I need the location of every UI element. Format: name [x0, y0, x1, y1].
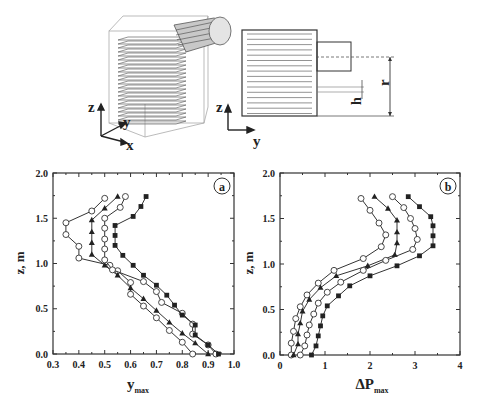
open-circle-marker — [63, 232, 69, 238]
x-tick-label: 4 — [458, 360, 463, 371]
open-circle-marker — [190, 351, 196, 357]
square-marker — [325, 303, 330, 308]
open-circle-marker — [408, 216, 414, 222]
open-circle-marker — [414, 236, 420, 242]
triangle-marker — [115, 193, 121, 198]
axis-label-x: x — [126, 137, 134, 153]
square-marker — [164, 293, 169, 298]
square-marker — [113, 243, 118, 248]
cylinder-icon — [174, 17, 231, 52]
square-marker — [395, 263, 400, 268]
open-circle-marker — [109, 267, 115, 273]
x-tick-label: 0.6 — [124, 359, 137, 370]
square-marker — [139, 204, 144, 209]
open-circle-marker — [102, 195, 108, 201]
open-circle-marker — [331, 267, 337, 273]
y-tick-label: 0.0 — [36, 349, 49, 360]
open-circle-marker — [288, 340, 294, 346]
x-tick-label: 0.5 — [98, 359, 111, 370]
x-tick-label: 2 — [368, 360, 373, 371]
open-circle-marker — [166, 327, 172, 333]
square-marker — [431, 243, 436, 248]
open-circle-marker — [383, 232, 389, 238]
open-circle-marker — [102, 246, 108, 252]
open-circle-marker — [401, 205, 407, 211]
y-tick-label: 1.0 — [263, 259, 276, 270]
y-tick-label: 2.0 — [263, 168, 276, 179]
square-marker — [131, 214, 136, 219]
square-marker — [309, 353, 314, 358]
triangle-marker — [192, 340, 198, 345]
open-circle-marker — [360, 267, 366, 273]
open-circle-marker — [76, 243, 82, 249]
open-circle-marker — [293, 316, 299, 322]
chart-a: 0.30.40.50.60.70.80.91.00.00.51.01.52.0 … — [12, 168, 240, 396]
panel-label: b — [445, 180, 452, 194]
dim-label-h: h — [349, 97, 364, 105]
square-marker — [347, 283, 352, 288]
open-circle-marker — [141, 303, 147, 309]
panel-label: a — [219, 180, 225, 194]
square-marker — [193, 333, 198, 338]
square-marker — [113, 223, 118, 228]
square-marker — [113, 233, 118, 238]
open-circle-marker — [128, 291, 134, 297]
x-tick-label: 3 — [413, 360, 418, 371]
y-tick-label: 2.0 — [36, 168, 49, 179]
square-marker — [141, 273, 146, 278]
open-circle-marker — [376, 220, 382, 226]
square-marker — [406, 194, 411, 199]
y-tick-label: 1.5 — [36, 213, 49, 224]
open-circle-marker — [179, 339, 185, 345]
x-tick-label: 0.7 — [150, 359, 163, 370]
y-tick-label: 0.0 — [263, 350, 276, 361]
open-circle-marker — [102, 236, 108, 242]
square-marker — [431, 223, 436, 228]
y-axis-label: z, m — [12, 251, 27, 274]
open-circle-marker — [360, 256, 366, 262]
x-tick-label: 0.9 — [202, 359, 215, 370]
square-marker — [417, 204, 422, 209]
plot-frame — [53, 173, 234, 354]
x-tick-label: 0.8 — [176, 359, 189, 370]
open-circle-marker — [122, 194, 128, 200]
x-tick-label: 1.0 — [228, 359, 241, 370]
plot-frame — [280, 173, 460, 355]
axes-pair-icon — [225, 105, 254, 133]
triangle-marker — [295, 341, 301, 346]
square-marker — [172, 303, 177, 308]
open-circle-marker — [159, 299, 165, 305]
x-axis-label: ΔPmax — [355, 376, 388, 395]
open-circle-marker — [153, 289, 159, 295]
open-circle-marker — [410, 246, 416, 252]
square-marker — [144, 194, 149, 199]
square-marker — [216, 352, 221, 357]
open-circle-marker — [89, 208, 95, 214]
open-circle-marker — [311, 311, 317, 317]
square-marker — [320, 313, 325, 318]
open-circle-marker — [291, 328, 297, 334]
axis-label-y-2d: y — [253, 133, 261, 149]
square-marker — [316, 333, 321, 338]
open-circle-marker — [102, 257, 108, 263]
open-circle-marker — [297, 352, 303, 358]
square-marker — [180, 313, 185, 318]
y-tick-label: 0.5 — [36, 303, 49, 314]
open-circle-marker — [63, 220, 69, 226]
triangle-marker — [372, 193, 378, 198]
triangle-marker — [89, 251, 95, 256]
triangle-marker — [89, 239, 95, 244]
y-tick-label: 1.5 — [263, 213, 276, 224]
open-circle-marker — [324, 289, 330, 295]
square-marker — [206, 343, 211, 348]
figure: z y x h r z y 0.30.40.50.60.70.80.91.00.… — [0, 0, 481, 403]
y-tick-label: 1.0 — [36, 258, 49, 269]
dim-label-r: r — [376, 79, 392, 86]
open-circle-marker — [390, 194, 396, 200]
data-series — [297, 194, 420, 358]
open-circle-marker — [304, 332, 310, 338]
square-marker — [318, 323, 323, 328]
open-circle-marker — [383, 257, 389, 263]
square-marker — [417, 253, 422, 258]
open-circle-marker — [153, 315, 159, 321]
